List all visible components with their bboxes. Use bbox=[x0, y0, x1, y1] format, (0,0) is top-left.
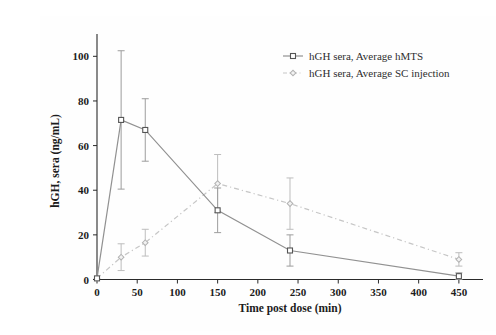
series-sc-injection bbox=[94, 155, 462, 282]
series-line-hmts bbox=[97, 120, 459, 278]
data-point-hmts bbox=[288, 248, 293, 253]
chart-canvas: 050100150200250300350400450020406080100T… bbox=[40, 16, 496, 331]
x-tick-label: 250 bbox=[290, 286, 307, 298]
legend-label: hGH sera, Average SC injection bbox=[309, 67, 450, 79]
legend-item: hGH sera, Average SC injection bbox=[283, 67, 450, 79]
series-hmts bbox=[95, 51, 463, 281]
y-tick-label: 0 bbox=[84, 274, 90, 286]
data-point-hmts bbox=[215, 208, 220, 213]
data-point-hmts bbox=[95, 276, 100, 281]
x-tick-label: 50 bbox=[132, 286, 144, 298]
data-point-hmts bbox=[143, 127, 148, 132]
series-line-sc-injection bbox=[97, 184, 459, 279]
data-point-hmts bbox=[456, 274, 461, 279]
legend-marker-diamond bbox=[290, 70, 296, 76]
data-point-sc-injection bbox=[287, 201, 293, 207]
x-axis: 050100150200250300350400450 bbox=[94, 280, 467, 298]
x-tick-label: 100 bbox=[169, 286, 186, 298]
y-tick-label: 40 bbox=[78, 184, 90, 196]
legend-item: hGH sera, Average hMTS bbox=[283, 50, 423, 62]
x-tick-label: 300 bbox=[330, 286, 347, 298]
legend: hGH sera, Average hMTShGH sera, Average … bbox=[283, 50, 450, 79]
data-point-hmts bbox=[119, 117, 124, 122]
x-tick-label: 0 bbox=[94, 286, 100, 298]
legend-label: hGH sera, Average hMTS bbox=[309, 50, 423, 62]
legend-marker-square bbox=[291, 54, 296, 59]
y-axis: 020406080100 bbox=[73, 50, 98, 285]
y-axis-title: hGH, sera (ng/mL) bbox=[49, 114, 62, 208]
y-tick-label: 60 bbox=[78, 140, 90, 152]
y-tick-label: 100 bbox=[73, 50, 90, 62]
y-tick-label: 20 bbox=[78, 229, 90, 241]
x-axis-title: Time post dose (min) bbox=[239, 302, 342, 315]
y-tick-label: 80 bbox=[78, 95, 90, 107]
data-point-sc-injection bbox=[456, 257, 462, 263]
x-tick-label: 150 bbox=[209, 286, 226, 298]
x-tick-label: 400 bbox=[410, 286, 427, 298]
x-tick-label: 200 bbox=[250, 286, 267, 298]
x-tick-label: 350 bbox=[370, 286, 387, 298]
x-tick-label: 450 bbox=[451, 286, 468, 298]
hgh-pk-line-chart: 050100150200250300350400450020406080100T… bbox=[40, 16, 496, 331]
